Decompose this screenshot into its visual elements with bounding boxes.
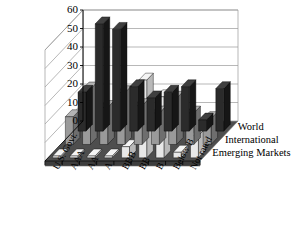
bar-side <box>103 17 110 131</box>
bar-front <box>112 29 120 131</box>
bar-side <box>224 82 231 131</box>
y-axis-tick-label: 60 <box>67 4 78 15</box>
y-axis-tick-label: 40 <box>67 41 78 52</box>
y-axis-tick-label: 10 <box>67 97 78 108</box>
chart-canvas <box>0 0 306 233</box>
bar-side <box>172 85 179 131</box>
bar-front <box>181 87 189 131</box>
bar-side <box>138 80 145 131</box>
bar-side <box>189 80 196 131</box>
legend-label-international: International <box>225 135 279 146</box>
bar <box>112 22 127 131</box>
bar-side <box>120 22 127 131</box>
bar <box>216 82 231 131</box>
bar-front <box>95 24 103 131</box>
y-axis-tick-label: 20 <box>67 78 78 89</box>
bar <box>147 91 162 131</box>
y-axis-tick-label: 0 <box>73 115 79 126</box>
bar-front <box>147 98 155 131</box>
bar-front <box>199 120 207 131</box>
bar-front <box>104 156 112 158</box>
bar-front <box>130 87 138 131</box>
bar-side <box>86 85 93 131</box>
bar <box>95 17 110 131</box>
legend-label-world: World <box>238 122 264 133</box>
chart-3d-bar: 0102030405060U.S. Govt.AAAAAABBBBBBBelow… <box>0 0 306 233</box>
bar <box>130 80 145 131</box>
bar <box>181 80 196 131</box>
y-axis-tick-label: 30 <box>67 60 78 71</box>
bar-front <box>164 92 172 131</box>
legend-label-emerging-markets: Emerging Markets <box>212 148 290 159</box>
y-axis-tick-label: 50 <box>67 23 78 34</box>
bar-front <box>216 89 224 132</box>
bar <box>164 85 179 131</box>
